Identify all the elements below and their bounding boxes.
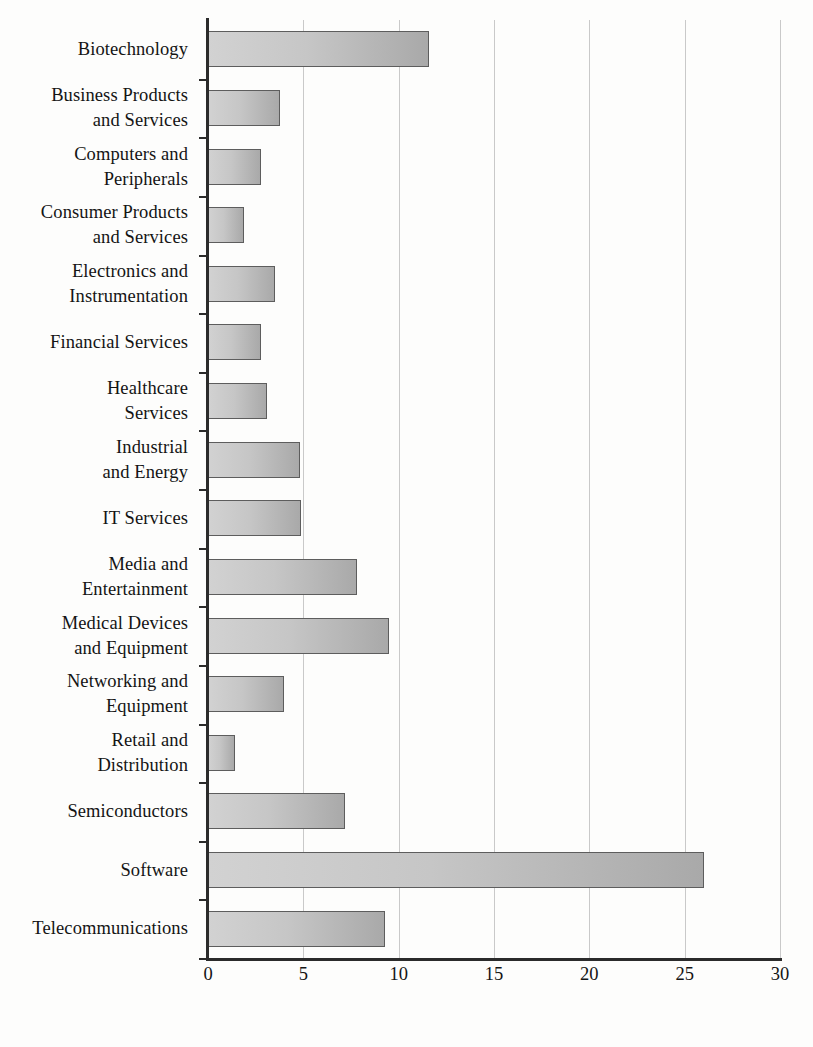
bar (208, 676, 284, 712)
value-axis-labels: 051015202530 (208, 962, 780, 1002)
category-label: Media and Entertainment (0, 552, 188, 602)
category-label: Business Products and Services (0, 83, 188, 133)
category-label: Software (0, 858, 188, 883)
y-axis-tick (199, 665, 207, 667)
x-tick-label: 25 (675, 962, 694, 986)
y-axis-tick (199, 782, 207, 784)
bar (208, 90, 280, 126)
x-axis-line (206, 958, 782, 961)
bar (208, 793, 345, 829)
bar (208, 735, 235, 771)
y-axis-tick (199, 137, 207, 139)
y-axis-tick (199, 724, 207, 726)
gridline-20 (589, 20, 590, 958)
category-label: Networking and Equipment (0, 669, 188, 719)
category-label: IT Services (0, 506, 188, 531)
category-label: Consumer Products and Services (0, 200, 188, 250)
category-label: Retail and Distribution (0, 728, 188, 778)
bar-chart: BiotechnologyBusiness Products and Servi… (0, 0, 813, 1047)
x-tick-label: 5 (299, 962, 308, 986)
bar (208, 31, 429, 67)
category-label: Industrial and Energy (0, 435, 188, 485)
x-tick-label: 30 (771, 962, 790, 986)
y-axis-tick (199, 606, 207, 608)
x-tick-label: 15 (485, 962, 504, 986)
y-axis-tick (199, 196, 207, 198)
x-tick-label: 20 (580, 962, 599, 986)
category-label: Financial Services (0, 330, 188, 355)
gridline-15 (494, 20, 495, 958)
bar (208, 911, 385, 947)
gridline-10 (399, 20, 400, 958)
y-axis-tick (199, 372, 207, 374)
category-label: Electronics and Instrumentation (0, 259, 188, 309)
category-label: Telecommunications (0, 916, 188, 941)
category-label: Computers and Peripherals (0, 142, 188, 192)
y-axis-tick (199, 548, 207, 550)
bar (208, 207, 244, 243)
bar (208, 618, 389, 654)
bar (208, 852, 704, 888)
gridline-30 (780, 20, 781, 958)
category-label: Healthcare Services (0, 376, 188, 426)
bar (208, 324, 261, 360)
bar (208, 559, 357, 595)
y-axis-tick (199, 489, 207, 491)
x-tick-label: 10 (389, 962, 408, 986)
bar (208, 500, 301, 536)
plot-area (208, 20, 780, 958)
y-axis-tick (199, 899, 207, 901)
y-axis-tick (199, 313, 207, 315)
category-axis-labels: BiotechnologyBusiness Products and Servi… (0, 20, 198, 958)
bar (208, 149, 261, 185)
y-axis-tick (199, 958, 207, 960)
y-axis-tick (199, 841, 207, 843)
category-label: Biotechnology (0, 37, 188, 62)
category-label: Medical Devices and Equipment (0, 611, 188, 661)
bar (208, 442, 300, 478)
y-axis-tick (199, 255, 207, 257)
bar (208, 383, 267, 419)
bar (208, 266, 275, 302)
x-tick-label: 0 (203, 962, 212, 986)
y-axis-tick (199, 430, 207, 432)
gridline-25 (685, 20, 686, 958)
y-axis-tick (199, 79, 207, 81)
category-label: Semiconductors (0, 799, 188, 824)
